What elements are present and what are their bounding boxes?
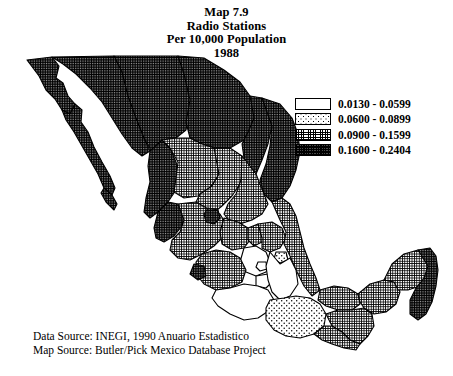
legend-label-class-1: 0.0130 - 0.0599 [338, 98, 411, 110]
legend-label-class-3: 0.0900 - 0.1599 [338, 129, 411, 141]
legend-row: 0.0600 - 0.0899 [295, 112, 443, 128]
region-guanajuato [220, 218, 250, 250]
region-baja-california-sur [62, 104, 115, 195]
legend-row: 0.0130 - 0.0599 [295, 96, 443, 112]
region-coahuila [178, 56, 256, 148]
legend-label-class-4: 0.1600 - 0.2404 [338, 144, 411, 156]
title-line-map-number: Map 7.9 [0, 6, 453, 20]
legend-label-class-2: 0.0600 - 0.0899 [338, 113, 411, 125]
legend-swatch-class-1 [295, 98, 331, 110]
region-hidalgo [258, 222, 286, 252]
region-guerrero [212, 284, 274, 320]
legend-swatch-class-4 [295, 144, 331, 156]
title-line-subject: Radio Stations [0, 20, 453, 34]
legend-row: 0.0900 - 0.1599 [295, 127, 443, 143]
legend-swatch-class-3 [295, 129, 331, 141]
legend-swatch-class-2 [295, 113, 331, 125]
source-notes: Data Source: INEGI, 1990 Anuario Estadis… [33, 329, 266, 357]
region-tabasco [318, 286, 360, 310]
map-source-line: Map Source: Butler/Pick Mexico Database … [33, 343, 266, 357]
title-line-measure: Per 10,000 Population [0, 33, 453, 47]
data-source-line: Data Source: INEGI, 1990 Anuario Estadis… [33, 329, 266, 343]
legend-row: 0.1600 - 0.2404 [295, 143, 443, 159]
map-figure: Map 7.9 Radio Stations Per 10,000 Popula… [0, 0, 453, 376]
map-legend: 0.0130 - 0.0599 0.0600 - 0.0899 0.0900 -… [295, 96, 443, 158]
region-colima [190, 264, 206, 280]
